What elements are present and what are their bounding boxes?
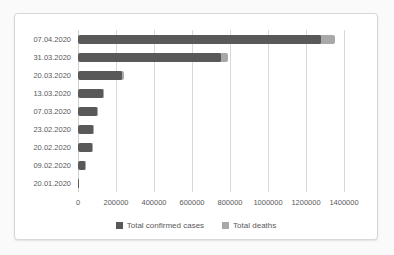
bar-row [78, 107, 98, 116]
total-deaths-swatch-icon [222, 222, 229, 229]
y-axis-label: 23.02.2020 [25, 125, 71, 134]
confirmed-cases-bar [78, 71, 122, 80]
chart-frame: 07.04.202031.03.202020.03.202013.03.2020… [14, 13, 378, 240]
total-deaths-bar [122, 71, 124, 80]
y-axis-label: 20.01.2020 [25, 179, 71, 188]
y-axis-label: 09.02.2020 [25, 161, 71, 170]
y-axis-label: 07.03.2020 [25, 107, 71, 116]
total-deaths-bar [103, 89, 104, 98]
x-axis-label: 1200000 [291, 198, 320, 207]
bar-row [78, 71, 124, 80]
total-deaths-bar [97, 107, 98, 116]
x-axis-label: 200000 [103, 198, 128, 207]
confirmed-cases-bar [78, 125, 93, 134]
bar-row [78, 89, 104, 98]
y-axis-label: 20.03.2020 [25, 71, 71, 80]
legend: Total confirmed cases Total deaths [15, 221, 377, 230]
y-axis-label: 31.03.2020 [25, 53, 71, 62]
y-axis-label: 20.02.2020 [25, 143, 71, 152]
legend-label-confirmed-cases: Total confirmed cases [127, 221, 204, 230]
x-axis-label: 1000000 [253, 198, 282, 207]
x-axis-label: 0 [76, 198, 80, 207]
bar-row [78, 179, 79, 188]
confirmed-cases-bar [78, 107, 97, 116]
total-deaths-bar [221, 53, 228, 62]
confirmed-cases-bar [78, 161, 85, 170]
confirmed-cases-bar [78, 143, 92, 152]
y-axis-label: 07.04.2020 [25, 35, 71, 44]
confirmed-cases-bar [78, 35, 321, 44]
x-axis-label: 800000 [217, 198, 242, 207]
gridline [268, 30, 269, 192]
y-axis-label: 13.03.2020 [25, 89, 71, 98]
confirmed-cases-bar [78, 53, 221, 62]
confirmed-cases-swatch-icon [116, 222, 123, 229]
bar-row [78, 35, 335, 44]
x-axis-label: 1400000 [329, 198, 358, 207]
confirmed-cases-bar [78, 89, 103, 98]
bar-row [78, 125, 93, 134]
bar-row [78, 143, 93, 152]
gridline [344, 30, 345, 192]
bar-row [78, 161, 85, 170]
legend-label-total-deaths: Total deaths [233, 221, 276, 230]
bar-row [78, 53, 228, 62]
x-axis-label: 400000 [141, 198, 166, 207]
confirmed-cases-bar [78, 179, 79, 188]
x-axis-label: 600000 [179, 198, 204, 207]
gridline [306, 30, 307, 192]
total-deaths-bar [321, 35, 335, 44]
legend-item-total-deaths: Total deaths [222, 221, 276, 230]
gridline [230, 30, 231, 192]
legend-item-confirmed-cases: Total confirmed cases [116, 221, 204, 230]
page-background: { "accent_colors": { "confirmed_cases": … [0, 0, 394, 255]
